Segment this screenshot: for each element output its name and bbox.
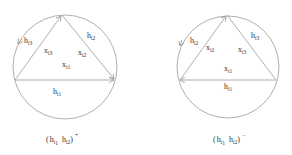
label-center-x: xi1 <box>62 60 71 70</box>
label-right-h: hi3 <box>251 31 260 41</box>
figure-plus: hi3 xi3 hi2 xi2 xi1 hi1 (hi1hi2)+ <box>13 15 117 146</box>
edge-left-arrow <box>180 16 226 80</box>
label-left-h: hi3 <box>24 36 33 46</box>
label-left-x: xi3 <box>44 46 53 56</box>
edge-right-line <box>227 15 276 80</box>
label-right-h: hi2 <box>87 31 96 41</box>
edge-left-arrow <box>15 16 61 80</box>
label-right-x: xi3 <box>238 45 247 55</box>
caption-minus: (hi1hi2)− <box>213 132 245 146</box>
diagram-canvas: hi3 xi3 hi2 xi2 xi1 hi1 (hi1hi2)+ hi2 xi… <box>0 0 292 155</box>
label-center-x: xi1 <box>224 64 233 74</box>
label-left-h: hi2 <box>190 36 199 46</box>
figure-minus: hi2 xi2 hi3 xi3 xi1 hi1 (hi1hi2)− <box>177 15 279 146</box>
circle <box>177 16 279 118</box>
arc-arrow-left <box>18 38 22 44</box>
caption-plus: (hi1hi2)+ <box>46 132 78 146</box>
label-right-x: xi2 <box>78 48 87 58</box>
label-left-x: xi2 <box>206 43 215 53</box>
label-bottom-h: hi1 <box>224 82 233 92</box>
label-bottom-h: hi1 <box>53 87 62 97</box>
